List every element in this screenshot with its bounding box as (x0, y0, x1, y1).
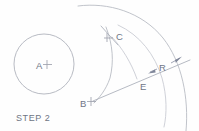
circle-a (14, 34, 74, 94)
figure-canvas: A B C E R STEP 2 (0, 0, 199, 131)
cross-marker-b (87, 97, 96, 106)
arrow-left-icon (148, 70, 156, 74)
label-e: E (140, 81, 147, 92)
label-c: C (116, 31, 123, 42)
arc-c-to-e (112, 37, 137, 79)
label-b: B (80, 98, 87, 109)
label-step: STEP 2 (16, 113, 50, 123)
label-r: R (159, 62, 166, 73)
arrow-right-icon (175, 57, 182, 63)
label-a: A (36, 60, 43, 71)
geometric-construction-figure: A B C E R STEP 2 (0, 0, 199, 131)
cross-marker-a (43, 60, 52, 69)
arc-inner-right (118, 25, 166, 127)
